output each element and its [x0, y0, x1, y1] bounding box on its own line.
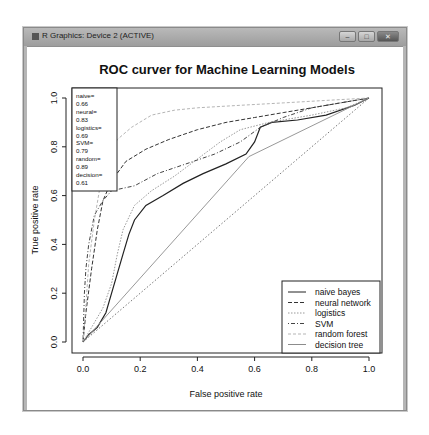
auc-box: naive=0.66neural=0.83logistics=0.69SVM=0… — [72, 88, 117, 191]
x-tick-label: 0.4 — [191, 364, 204, 374]
y-tick-label: 0.4 — [49, 238, 59, 251]
auc-text: 0.61 — [76, 179, 89, 186]
x-tick-label: 0.8 — [306, 364, 319, 374]
auc-text: logistics= — [76, 124, 102, 131]
auc-text: 0.69 — [76, 132, 89, 139]
x-tick-label: 1.0 — [363, 364, 376, 374]
legend-label: random forest — [315, 329, 368, 339]
legend: naive bayesneural networklogisticsSVMran… — [282, 281, 380, 353]
legend-label: naive bayes — [315, 287, 360, 297]
x-tick-label: 0.2 — [134, 364, 147, 374]
auc-text: random= — [76, 155, 101, 162]
y-tick-label: 0.6 — [49, 189, 59, 202]
y-tick-label: 0.2 — [49, 287, 59, 300]
legend-label: logistics — [315, 308, 345, 318]
y-axis-label: True positive rate — [30, 185, 40, 254]
legend-label: neural network — [315, 298, 372, 308]
x-axis: 0.00.20.40.60.81.0 — [77, 357, 376, 374]
auc-text: SVM= — [76, 139, 93, 146]
x-tick-label: 0.6 — [248, 364, 261, 374]
roc-chart: ROC curver for Machine Learning Models 0… — [0, 0, 429, 435]
auc-text: naive= — [76, 92, 95, 99]
y-tick-label: 1.0 — [49, 92, 59, 105]
auc-text: 0.83 — [76, 116, 89, 123]
y-tick-label: 0.8 — [49, 141, 59, 154]
x-axis-label: False positive rate — [189, 389, 262, 399]
legend-label: decision tree — [315, 340, 363, 350]
chart-title: ROC curver for Machine Learning Models — [99, 62, 355, 77]
auc-text: decision= — [76, 171, 103, 178]
auc-text: neural= — [76, 108, 97, 115]
auc-text: 0.89 — [76, 163, 89, 170]
auc-text: 0.66 — [76, 100, 89, 107]
legend-label: SVM — [315, 319, 333, 329]
x-tick-label: 0.0 — [77, 364, 90, 374]
auc-text: 0.79 — [76, 147, 89, 154]
y-tick-label: 0.0 — [49, 336, 59, 349]
y-axis: 0.00.20.40.60.81.0 — [49, 92, 66, 349]
